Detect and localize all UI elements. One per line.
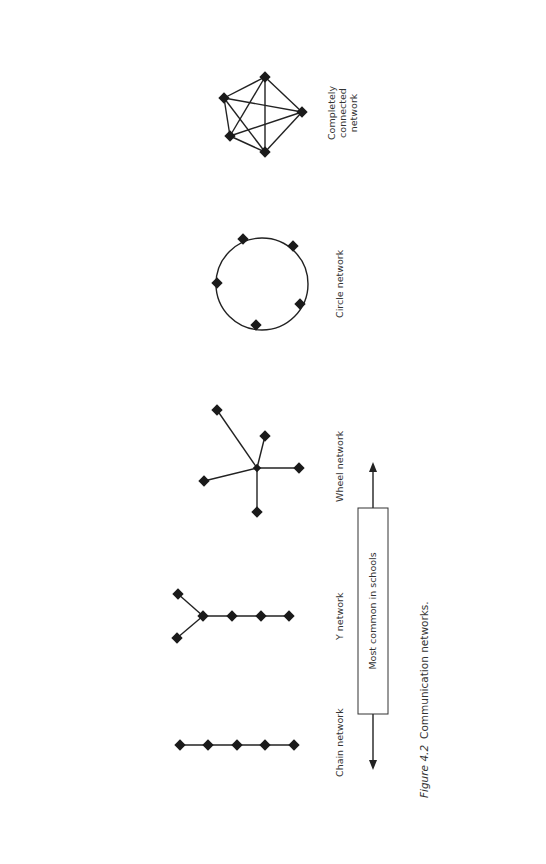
range-box-label: Most common in schools: [367, 552, 378, 669]
complete-network-label: Completely connected network: [326, 86, 359, 140]
svg-text:Completely: Completely: [326, 86, 337, 140]
svg-text:network: network: [348, 93, 359, 132]
chain-network-diagram: [174, 739, 299, 750]
figure-caption: Figure 4.2Communication networks.: [418, 601, 430, 798]
circle-network-diagram: [211, 233, 308, 330]
arrow-down-icon: [369, 760, 377, 770]
complete-network-diagram: [218, 71, 307, 157]
wheel-network-diagram: [198, 404, 304, 517]
circle-network-label: Circle network: [334, 249, 345, 318]
wheel-network-label: Wheel network: [334, 430, 345, 502]
y-network-diagram: [171, 588, 294, 643]
most-common-range-indicator: Most common in schools: [358, 462, 388, 770]
arrow-up-icon: [369, 462, 377, 472]
y-network-label: Y network: [334, 592, 345, 641]
chain-network-label: Chain network: [334, 708, 345, 777]
figure-title: Communication networks.: [418, 601, 430, 739]
figure-number: Figure 4.2: [418, 745, 430, 798]
svg-text:connected: connected: [337, 88, 348, 138]
communication-networks-figure: Chain network Y network Wheel network Ci…: [0, 0, 546, 864]
